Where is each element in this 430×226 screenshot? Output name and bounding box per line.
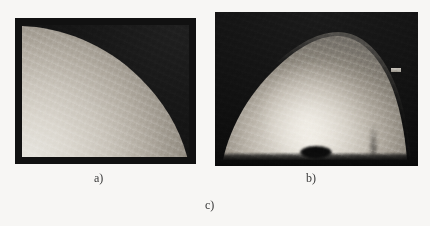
caption-figure-overall: c) — [205, 199, 214, 211]
panel-a-image-content — [22, 24, 189, 157]
figure-container: a) b) c) — [0, 0, 430, 226]
panel-b-image — [215, 12, 418, 166]
panel-b-image-content — [215, 12, 418, 166]
panel-b-texture-overlay — [215, 12, 418, 166]
panel-a-texture-overlay — [22, 24, 189, 157]
caption-panel-a: a) — [94, 172, 103, 184]
panel-a-image — [15, 18, 196, 164]
caption-panel-b: b) — [306, 172, 316, 184]
